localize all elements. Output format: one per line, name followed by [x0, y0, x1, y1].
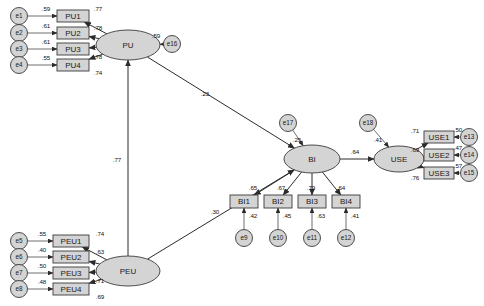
error-term-e5[interactable]: e5: [11, 233, 28, 250]
latent-variable-BI[interactable]: BI: [284, 145, 340, 173]
loading-coefficient-BI-BI3: .79: [307, 184, 316, 191]
error-coefficient-e6-PEU2: .40: [38, 246, 47, 253]
error-coefficient-e13-USE1: .50: [454, 126, 463, 133]
error-coefficient-e2-PU2: .61: [42, 22, 51, 29]
loading-coefficient-USE-USE1: .71: [411, 127, 420, 134]
latent-label-PU: PU: [122, 41, 133, 50]
observed-variable-BI1[interactable]: BI1: [230, 195, 258, 208]
error-label-e2: e2: [15, 29, 23, 36]
error-label-e1: e1: [15, 12, 23, 19]
error-label-e4: e4: [15, 61, 23, 68]
error-term-e11[interactable]: e11: [304, 230, 321, 247]
loading-coefficient-PEU-PEU4: .69: [96, 293, 105, 300]
loading-coefficient-PU-PU1: .77: [94, 5, 103, 12]
observed-label-BI1: BI1: [238, 197, 251, 206]
error-coefficient-e10-BI2: .45: [283, 212, 292, 219]
latent-label-BI: BI: [308, 155, 316, 164]
error-label-e5: e5: [15, 237, 23, 244]
observed-variable-PEU3[interactable]: PEU3: [53, 267, 89, 279]
observed-label-BI2: BI2: [272, 197, 285, 206]
observed-variable-BI2[interactable]: BI2: [264, 195, 292, 208]
error-label-e18: e18: [363, 119, 374, 126]
error-term-e4[interactable]: e4: [11, 57, 28, 74]
error-term-e10[interactable]: e10: [270, 230, 287, 247]
observed-label-BI3: BI3: [306, 197, 319, 206]
observed-label-PEU2: PEU2: [61, 253, 82, 262]
error-label-e8: e8: [15, 285, 23, 292]
loading-path-PU-to-PU2: [89, 36, 99, 38]
latent-label-PEU: PEU: [120, 267, 137, 276]
observed-variable-USE3[interactable]: USE3: [424, 167, 454, 179]
loading-coefficient-PEU-PEU3: .71: [96, 277, 105, 284]
observed-variable-PEU4[interactable]: PEU4: [53, 283, 89, 295]
observed-label-USE1: USE1: [429, 133, 450, 142]
loading-coefficient-BI-BI4: .64: [337, 184, 346, 191]
error-term-e6[interactable]: e6: [11, 249, 28, 266]
structural-path-PEU-to-BI: [148, 170, 295, 259]
loading-path-USE-to-USE3: [420, 166, 424, 167]
error-term-e15[interactable]: e15: [461, 165, 478, 182]
loading-coefficient-USE-USE2: .69: [411, 146, 420, 153]
observed-label-PU4: PU4: [65, 61, 81, 70]
loading-path-PU-to-PU3: [89, 47, 96, 48]
error-label-e6: e6: [15, 253, 23, 260]
observed-label-PEU3: PEU3: [61, 269, 82, 278]
error-coefficient-e12-BI4: .41: [351, 212, 360, 219]
observed-variable-PEU2[interactable]: PEU2: [53, 251, 89, 263]
error-coefficient-e8-PEU4: .48: [38, 278, 47, 285]
observed-variable-PEU1[interactable]: PEU1: [53, 235, 89, 247]
observed-label-PU2: PU2: [65, 29, 81, 38]
observed-label-USE2: USE2: [429, 151, 450, 160]
structural-coefficient-PU-BI: .23: [201, 90, 210, 97]
error-term-e13[interactable]: e13: [461, 129, 478, 146]
error-label-e7: e7: [15, 269, 23, 276]
error-coefficient-e18-USE: .41: [374, 136, 383, 143]
error-label-e9: e9: [240, 234, 248, 241]
error-label-e3: e3: [15, 45, 23, 52]
error-label-e17: e17: [283, 119, 294, 126]
structural-coefficient-BI-USE: .64: [351, 148, 360, 155]
error-label-e13: e13: [464, 133, 475, 140]
error-label-e15: e15: [464, 169, 475, 176]
error-term-e16[interactable]: e16: [164, 36, 181, 53]
error-term-e17[interactable]: e17: [280, 115, 297, 132]
structural-coefficient-PEU-BI: .30: [211, 208, 220, 215]
observed-label-PU1: PU1: [65, 12, 81, 21]
error-term-e7[interactable]: e7: [11, 265, 28, 282]
observed-variable-USE2[interactable]: USE2: [424, 149, 454, 161]
loading-coefficient-USE-USE3: .76: [411, 174, 420, 181]
loading-path-PEU-to-PEU2: [89, 261, 100, 264]
error-term-e8[interactable]: e8: [11, 281, 28, 298]
loading-coefficient-PU-PU2: .78: [94, 24, 103, 31]
observed-variable-PU1[interactable]: PU1: [57, 10, 89, 22]
error-term-e14[interactable]: e14: [461, 147, 478, 164]
error-term-e1[interactable]: e1: [11, 8, 28, 25]
observed-label-PU3: PU3: [65, 45, 81, 54]
loading-coefficient-PU-PU4: .74: [94, 69, 103, 76]
structural-path-PU-to-BI: [147, 57, 294, 148]
observed-variable-BI3[interactable]: BI3: [298, 195, 326, 208]
error-term-e9[interactable]: e9: [236, 230, 253, 247]
error-term-e12[interactable]: e12: [338, 230, 355, 247]
observed-variable-PU4[interactable]: PU4: [57, 59, 89, 71]
error-coefficient-e4-PU4: .55: [42, 54, 51, 61]
observed-variable-PU2[interactable]: PU2: [57, 27, 89, 39]
loading-coefficient-BI-BI2: .67: [277, 184, 286, 191]
error-coefficient-e5-PEU1: .55: [38, 230, 47, 237]
error-coefficient-e1-PU1: .59: [42, 5, 51, 12]
error-term-e18[interactable]: e18: [360, 115, 377, 132]
error-term-e2[interactable]: e2: [11, 25, 28, 42]
loading-coefficient-PEU-PEU2: .63: [96, 248, 105, 255]
observed-label-USE3: USE3: [429, 169, 450, 178]
observed-variable-PU3[interactable]: PU3: [57, 43, 89, 55]
observed-variable-BI4[interactable]: BI4: [332, 195, 360, 208]
observed-variable-USE1[interactable]: USE1: [424, 131, 454, 143]
error-term-e3[interactable]: e3: [11, 41, 28, 58]
observed-label-PEU4: PEU4: [61, 285, 82, 294]
nodes-layer: PUPEUBIUSEPU1PU2PU3PU4PEU1PEU2PEU3PEU4BI…: [11, 8, 478, 298]
diagram-canvas: PUPEUBIUSEPU1PU2PU3PU4PEU1PEU2PEU3PEU4BI…: [0, 0, 484, 306]
error-coefficient-e15-USE3: .57: [454, 162, 463, 169]
latent-variable-PU[interactable]: PU: [96, 30, 160, 60]
latent-variable-PEU[interactable]: PEU: [96, 256, 160, 286]
error-coefficient-e11-BI3: .63: [317, 212, 326, 219]
